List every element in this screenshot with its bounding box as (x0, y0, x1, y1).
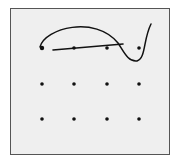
dot (72, 117, 76, 121)
dot (137, 117, 141, 121)
dot-grid (40, 46, 141, 121)
dot (40, 82, 44, 86)
dot (40, 117, 44, 121)
dot (137, 46, 141, 50)
arc-curve (40, 24, 151, 61)
dot (105, 46, 109, 50)
dot (72, 82, 76, 86)
dot (105, 82, 109, 86)
diagram-canvas (0, 0, 178, 166)
straight-stroke (53, 44, 123, 50)
dot (137, 82, 141, 86)
dot (105, 117, 109, 121)
